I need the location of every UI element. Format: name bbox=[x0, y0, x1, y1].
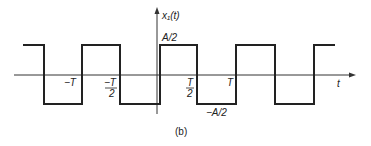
y-axis-label: x₁(t) bbox=[161, 10, 180, 21]
y-axis-arrow-icon bbox=[155, 7, 160, 14]
tick-label-neg-T: −T bbox=[64, 77, 77, 88]
high-level-label: A/2 bbox=[161, 32, 177, 43]
low-level-label: −A/2 bbox=[206, 107, 227, 118]
tick-label-neg-T-half-denominator: 2 bbox=[108, 88, 115, 99]
tick-label-neg-T-half-numerator: −T bbox=[104, 77, 117, 88]
tick-label-T: T bbox=[227, 77, 234, 88]
x-axis-label: t bbox=[337, 78, 341, 89]
tick-label-T-half-numerator: T bbox=[187, 77, 194, 88]
figure-caption: (b) bbox=[175, 126, 187, 137]
x-axis-arrow-icon bbox=[349, 73, 356, 78]
tick-label-T-half-denominator: 2 bbox=[186, 88, 193, 99]
square-wave-diagram: x₁(t) t A/2 −A/2 −T −T 2 T 2 T (b) bbox=[0, 0, 371, 146]
